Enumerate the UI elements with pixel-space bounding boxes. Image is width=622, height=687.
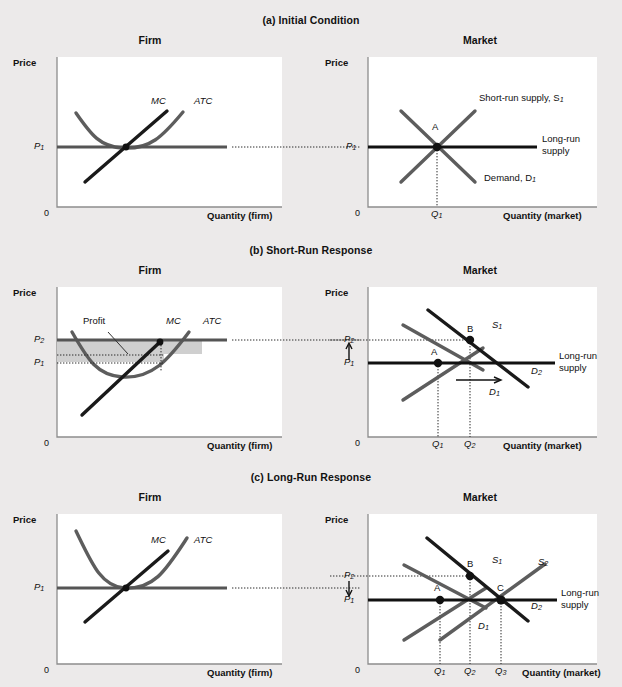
panel-c-market-svg	[0, 460, 622, 687]
panel-b-point-a-marker	[434, 359, 442, 367]
panel-a-market-x-axis-label: Quantity (market)	[503, 210, 582, 221]
panel-b-point-a-label: A	[431, 346, 437, 357]
panel-b-point-b-label: B	[467, 323, 473, 334]
panel-a-point-a-marker	[433, 143, 441, 151]
panel-b-market-p1-label: P1	[344, 356, 354, 368]
panel-c-demand-d1-label: D1	[478, 620, 489, 632]
panel-a-market-p1-label: P1	[346, 140, 356, 152]
panel-c-demand-d2-label: D2	[531, 600, 542, 612]
panel-c-market-p1-label: P1	[344, 593, 354, 605]
panel-c: (c) Long-Run Response Firm Market Price …	[0, 460, 622, 687]
panel-b-demand-d1-label: D1	[489, 386, 500, 398]
panel-b-point-b-marker	[466, 336, 474, 344]
panel-a-market-svg	[0, 0, 622, 232]
panel-c-point-a-label: A	[434, 582, 440, 593]
panel-c-supply-s2-curve	[440, 564, 545, 640]
panel-a-supply-label: Short-run supply, S1	[479, 92, 564, 104]
panel-c-market-origin: 0	[355, 665, 360, 675]
panel-c-q1-label: Q1	[434, 665, 445, 677]
panel-a-demand-label: Demand, D1	[484, 172, 536, 184]
panel-c-q3-label: Q3	[495, 665, 506, 677]
panel-b-q1-label: Q1	[432, 438, 443, 450]
panel-b-q2-label: Q2	[464, 438, 475, 450]
panel-a-market-origin: 0	[355, 208, 360, 218]
panel-c-market-p2-label: P2	[344, 569, 354, 581]
figure-root: (a) Initial Condition Firm Market Price …	[0, 0, 622, 687]
panel-c-supply-s2-label: S2	[538, 556, 548, 568]
panel-b-market-p2-label: P2	[344, 333, 354, 345]
panel-b-market-origin: 0	[355, 438, 360, 448]
panel-c-supply-s1-label: S1	[492, 554, 502, 566]
panel-c-point-a-marker	[436, 596, 444, 604]
panel-c-demand-d2-curve	[427, 538, 528, 621]
panel-c-point-c-label: C	[497, 582, 504, 593]
panel-c-point-c-marker	[496, 595, 505, 604]
panel-c-point-b-label: B	[467, 558, 473, 569]
panel-b-market-svg	[0, 232, 622, 460]
panel-c-longrun-supply-label: Long-run supply	[561, 587, 599, 610]
panel-b-supply-s1-label: S1	[492, 319, 502, 331]
panel-a-point-a-label: A	[432, 121, 438, 132]
panel-b: (b) Short-Run Response Firm Market Price	[0, 232, 622, 460]
panel-a-market-axes	[368, 57, 597, 207]
panel-b-longrun-supply-label: Long-run supply	[559, 350, 597, 373]
panel-c-q2-label: Q2	[464, 665, 475, 677]
panel-b-market-x-axis-label: Quantity (market)	[503, 440, 582, 451]
panel-a-longrun-supply-label: Long-run supply	[542, 133, 580, 156]
panel-c-point-b-marker	[466, 572, 474, 580]
panel-b-demand-d2-label: D2	[531, 365, 542, 377]
panel-a: (a) Initial Condition Firm Market Price …	[0, 0, 622, 232]
panel-c-market-x-axis-label: Quantity (market)	[522, 667, 601, 678]
panel-a-q1-label: Q1	[431, 208, 442, 220]
panel-b-demand-d1-curve	[403, 348, 483, 400]
